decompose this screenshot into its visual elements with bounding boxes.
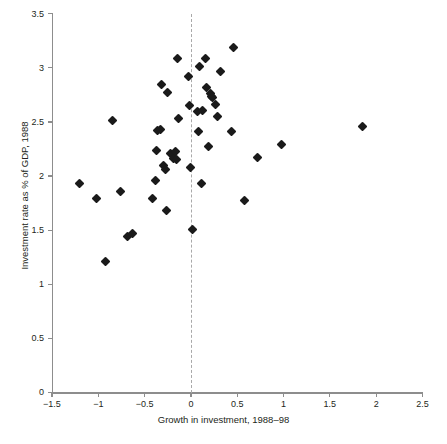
y-axis-tick-label: 3.5 bbox=[14, 9, 44, 19]
y-axis-tick bbox=[48, 13, 52, 14]
x-axis-tick bbox=[376, 393, 377, 397]
data-point bbox=[229, 42, 239, 52]
y-axis-tick-label: 1.5 bbox=[14, 225, 44, 235]
data-point bbox=[188, 224, 198, 234]
data-point bbox=[184, 101, 194, 111]
data-point bbox=[183, 72, 193, 82]
data-point bbox=[174, 114, 184, 124]
x-axis-tick bbox=[51, 393, 52, 397]
x-axis-tick bbox=[283, 393, 284, 397]
x-axis-tick-label: 2.5 bbox=[406, 399, 440, 409]
y-axis-tick-label: 2 bbox=[14, 171, 44, 181]
y-axis-tick-label: 0.5 bbox=[14, 333, 44, 343]
data-point bbox=[185, 162, 195, 172]
y-axis-tick bbox=[48, 230, 52, 231]
x-axis-tick-label: 0.5 bbox=[220, 399, 254, 409]
data-point bbox=[196, 179, 206, 189]
data-point bbox=[173, 53, 183, 63]
y-axis-tick bbox=[48, 338, 52, 339]
data-point bbox=[201, 53, 211, 63]
zero-reference-line bbox=[191, 14, 192, 393]
data-point bbox=[163, 88, 173, 98]
data-point bbox=[253, 153, 263, 163]
data-point bbox=[193, 127, 203, 137]
data-point bbox=[161, 165, 171, 175]
x-axis-title: Growth in investment, 1988–98 bbox=[0, 414, 447, 425]
data-point bbox=[213, 112, 223, 122]
y-axis-tick bbox=[48, 121, 52, 122]
data-point bbox=[156, 79, 166, 89]
y-axis-tick-label: 0 bbox=[14, 387, 44, 397]
x-axis-tick bbox=[237, 393, 238, 397]
data-point bbox=[107, 116, 117, 126]
data-point bbox=[151, 175, 161, 185]
data-point bbox=[116, 186, 126, 196]
x-axis-tick bbox=[422, 393, 423, 397]
data-point bbox=[240, 196, 250, 206]
y-axis-tick-label: 3 bbox=[14, 63, 44, 73]
y-axis-line bbox=[52, 13, 53, 393]
data-point bbox=[101, 257, 111, 267]
y-axis-tick-label: 1 bbox=[14, 279, 44, 289]
data-point bbox=[148, 194, 158, 204]
x-axis-tick bbox=[190, 393, 191, 397]
data-point bbox=[75, 179, 85, 189]
data-point bbox=[357, 121, 367, 131]
data-point bbox=[194, 62, 204, 72]
x-axis-tick-label: −1.5 bbox=[35, 399, 69, 409]
y-axis-tick bbox=[48, 284, 52, 285]
scatter-plot-figure: Investment rate as % of GDP, 1988 00.511… bbox=[0, 0, 447, 444]
data-point bbox=[162, 206, 172, 216]
x-axis-tick bbox=[329, 393, 330, 397]
x-axis-tick bbox=[98, 393, 99, 397]
x-axis-tick bbox=[144, 393, 145, 397]
y-axis-tick bbox=[48, 67, 52, 68]
data-point bbox=[92, 194, 102, 204]
data-point bbox=[216, 66, 226, 76]
x-axis-tick-label: 1.5 bbox=[313, 399, 347, 409]
y-axis-tick-label: 2.5 bbox=[14, 117, 44, 127]
x-axis-tick-label: 0 bbox=[174, 399, 208, 409]
x-axis-tick-label: −0.5 bbox=[128, 399, 162, 409]
data-point bbox=[204, 142, 214, 152]
data-point bbox=[227, 127, 237, 137]
x-axis-tick-label: 2 bbox=[359, 399, 393, 409]
data-point bbox=[152, 145, 162, 155]
x-axis-tick-label: −1 bbox=[81, 399, 115, 409]
y-axis-tick bbox=[48, 175, 52, 176]
data-point bbox=[277, 140, 287, 150]
x-axis-tick-label: 1 bbox=[267, 399, 301, 409]
